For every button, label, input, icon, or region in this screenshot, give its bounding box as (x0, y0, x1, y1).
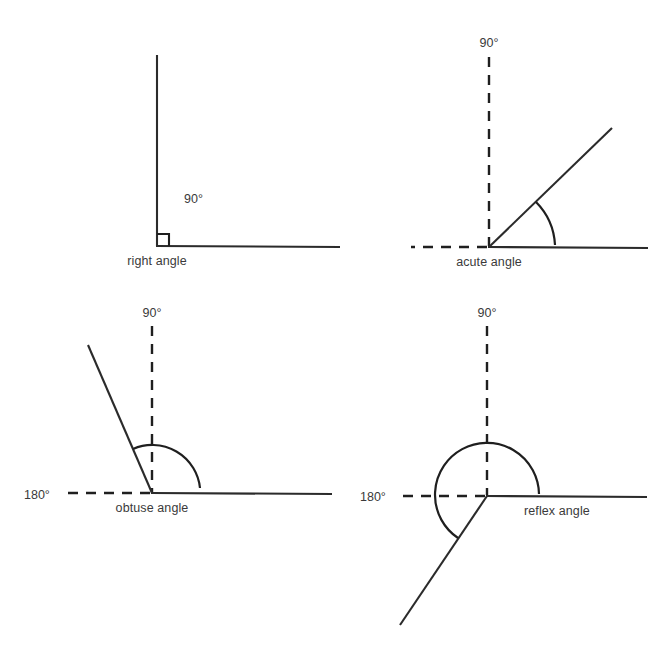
obtuse-angle-caption: obtuse angle (116, 501, 189, 515)
obtuse-angle-horizontal-arm (151, 493, 332, 494)
panel-acute-angle: 90° acute angle (411, 36, 648, 269)
obtuse-angle-arc (133, 445, 200, 488)
reflex-angle-degree-label-180: 180° (360, 490, 386, 504)
angles-diagram-canvas: 90° right angle 90° acute angle 90° 180°… (0, 0, 663, 653)
right-angle-degree-label: 90° (184, 192, 203, 206)
acute-angle-degree-label: 90° (480, 36, 499, 50)
obtuse-angle-degree-label-180: 180° (24, 488, 50, 502)
obtuse-angle-arm (88, 345, 152, 493)
right-angle-caption: right angle (127, 254, 186, 268)
reflex-angle-arm (400, 496, 487, 625)
right-angle-square-marker (157, 234, 169, 246)
angle-types-figure: 90° right angle 90° acute angle 90° 180°… (0, 0, 663, 653)
acute-angle-arc (536, 202, 555, 245)
panel-reflex-angle: 90° 180° reflex angle (360, 306, 647, 625)
panel-obtuse-angle: 90° 180° obtuse angle (24, 306, 332, 515)
acute-angle-caption: acute angle (456, 255, 522, 269)
reflex-angle-degree-label-90: 90° (478, 306, 497, 320)
acute-angle-horizontal-arm (488, 247, 648, 248)
reflex-angle-horizontal-arm (486, 496, 647, 497)
panel-right-angle: 90° right angle (127, 55, 340, 268)
reflex-angle-caption: reflex angle (524, 504, 590, 518)
right-angle-horizontal-arm (156, 246, 340, 247)
obtuse-angle-degree-label-90: 90° (143, 306, 162, 320)
acute-angle-arm (489, 128, 612, 247)
